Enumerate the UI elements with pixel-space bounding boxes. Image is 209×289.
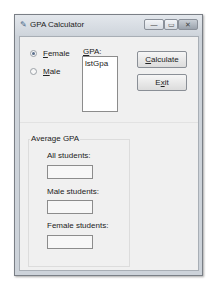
male-radio[interactable]: Male — [30, 67, 60, 76]
app-icon: ✎ — [20, 21, 28, 29]
all-students-textbox[interactable] — [47, 165, 93, 179]
female-radio[interactable]: Female — [30, 49, 70, 58]
close-button[interactable]: ✕ — [178, 19, 198, 30]
male-radio-label: Male — [43, 67, 60, 76]
radio-unchecked-icon — [30, 68, 37, 75]
male-students-textbox[interactable] — [47, 200, 93, 214]
gpa-calculator-window: ✎ GPA Calculator — ▭ ✕ Female Male GPA: … — [14, 14, 203, 276]
average-gpa-group-title: Average GPA — [30, 134, 80, 143]
all-students-label: All students: — [47, 151, 91, 160]
calculate-button[interactable]: Calculate — [137, 51, 187, 68]
client-area: Female Male GPA: lstGpa Calculate Exit A… — [19, 36, 199, 271]
maximize-icon: ▭ — [165, 20, 177, 29]
listbox-item[interactable]: lstGpa — [85, 59, 115, 68]
female-students-label: Female students: — [47, 221, 108, 230]
male-students-label: Male students: — [47, 187, 99, 196]
gpa-label: GPA: — [83, 47, 102, 56]
minimize-button[interactable]: — — [144, 19, 164, 30]
female-students-textbox[interactable] — [47, 235, 93, 249]
radio-checked-icon — [30, 50, 37, 57]
minimize-icon: — — [145, 20, 163, 29]
title-bar[interactable]: ✎ GPA Calculator — ▭ ✕ — [15, 15, 202, 35]
close-icon: ✕ — [179, 20, 197, 29]
window-title: GPA Calculator — [30, 20, 84, 29]
maximize-button[interactable]: ▭ — [164, 19, 178, 30]
female-radio-label: Female — [43, 49, 70, 58]
divider — [20, 122, 198, 123]
gpa-listbox[interactable]: lstGpa — [82, 56, 118, 112]
exit-button[interactable]: Exit — [137, 74, 187, 91]
